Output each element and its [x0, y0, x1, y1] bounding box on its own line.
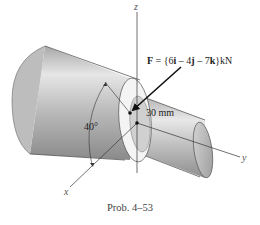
- origin-point: [135, 121, 139, 125]
- z-axis-label: z: [134, 2, 138, 12]
- y-axis-label: y: [242, 153, 246, 163]
- force-point: [128, 111, 132, 115]
- shaft-diagram: [0, 0, 260, 225]
- x-axis-label: x: [64, 187, 68, 197]
- angle-label: 40°: [84, 122, 98, 132]
- dimension-label: 30 mm: [146, 108, 174, 118]
- force-label: F = {6i – 4j – 7k}kN: [147, 56, 232, 66]
- figure-caption: Prob. 4–53: [0, 203, 260, 214]
